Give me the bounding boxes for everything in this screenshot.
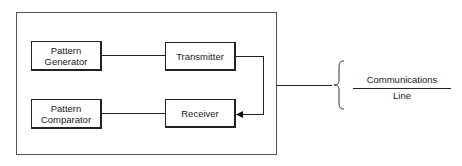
pattern-generator-block: Pattern Generator: [31, 41, 102, 71]
connector-transmitter-out: [236, 56, 263, 57]
connector-comparator-receiver: [102, 113, 165, 114]
connector-loop-vertical: [263, 56, 264, 115]
system-enclosure: [16, 12, 277, 155]
connector-generator-transmitter: [102, 55, 165, 56]
transmitter-block: Transmitter: [165, 42, 236, 71]
pattern-comparator-block: Pattern Comparator: [31, 99, 102, 129]
pattern-generator-label-2: Generator: [45, 56, 88, 67]
communications-label: Communications: [353, 74, 451, 85]
pattern-generator-label-1: Pattern: [45, 45, 88, 56]
transmitter-label: Transmitter: [176, 51, 224, 62]
pattern-comparator-label-1: Pattern: [41, 103, 91, 114]
receiver-label: Receiver: [181, 108, 219, 119]
connector-system-to-line: [277, 85, 332, 86]
arrowhead-icon: [236, 110, 244, 119]
line-label: Line: [353, 90, 451, 101]
brace-icon: [333, 60, 347, 110]
receiver-block: Receiver: [165, 99, 236, 128]
communications-line-rule: [353, 88, 451, 89]
pattern-comparator-label-2: Comparator: [41, 114, 91, 125]
